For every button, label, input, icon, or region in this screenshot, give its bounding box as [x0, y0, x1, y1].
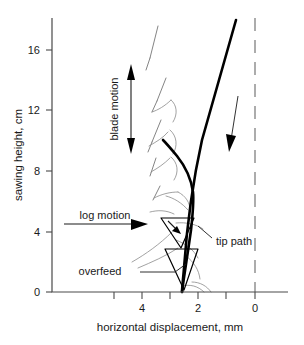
axis-frame: [46, 18, 288, 299]
y-tick-label-0: 0: [34, 286, 40, 298]
blade-motion-arrow-down-head-icon: [127, 138, 135, 154]
cutting-direction-arrow-shaft: [231, 96, 238, 140]
overfeed-annotation: overfeed: [79, 264, 186, 277]
log-motion-annotation: log motion: [64, 209, 148, 230]
overfeed-label: overfeed: [79, 265, 122, 277]
log-motion-label: log motion: [80, 209, 131, 221]
blade-motion-label: blade motion: [108, 78, 120, 141]
blade-motion-annotation: blade motion: [108, 64, 135, 154]
tip-path-downstroke: [182, 20, 236, 292]
tip-path-leader-line: [198, 226, 212, 238]
sawing-kinematics-figure: 16 12 8 4 0 4 2 0 sawing height, cm hori…: [0, 0, 304, 345]
tip-path-annotation: tip path: [198, 226, 252, 247]
axis-lines: [52, 18, 288, 292]
tip-path-label: tip path: [216, 235, 252, 247]
x-tick-label-0: 0: [252, 302, 258, 314]
overfeed-leader-line: [140, 264, 186, 272]
x-axis-title: horizontal displacement, mm: [97, 321, 243, 333]
y-tick-label-12: 12: [28, 104, 40, 116]
tip-path-curve-group: [163, 20, 236, 292]
cutting-direction-arrow-head-icon: [226, 134, 236, 152]
y-tick-label-8: 8: [34, 165, 40, 177]
blade-motion-arrow-up-head-icon: [127, 64, 135, 80]
x-tick-label-4: 4: [139, 302, 145, 314]
y-tick-label-16: 16: [28, 44, 40, 56]
y-tick-label-4: 4: [34, 226, 40, 238]
cutting-direction-annotation: [226, 96, 238, 152]
chart-canvas: 16 12 8 4 0 4 2 0 sawing height, cm hori…: [0, 0, 304, 345]
x-tick-label-2: 2: [195, 302, 201, 314]
lower-tooth: [165, 249, 198, 290]
y-axis-title: sawing height, cm: [12, 109, 24, 201]
saw-teeth-group: [161, 218, 198, 290]
log-motion-arrow-head-icon: [131, 219, 148, 230]
